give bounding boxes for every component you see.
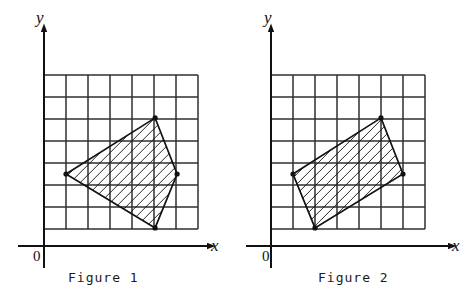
hatch-line (273, 0, 465, 98)
origin-label: 0 (262, 248, 270, 265)
hatch-line (273, 0, 465, 68)
hatch-line (273, 0, 465, 118)
hatch-line (273, 0, 465, 48)
hatch-line (273, 0, 465, 78)
hatch-line (273, 68, 465, 300)
vertex-dot-top (378, 115, 383, 120)
hatch-line (273, 0, 465, 58)
hatch-line (273, 18, 465, 278)
hatch-line (273, 0, 465, 138)
vertex-dot-top (153, 115, 158, 120)
figure-caption: Figure 2 (318, 270, 389, 285)
y-axis-label: y (264, 8, 272, 28)
vertex-dot-left (63, 171, 68, 176)
hatch-line (273, 0, 465, 28)
hatch-line (273, 0, 465, 8)
hatch-line (273, 0, 465, 158)
hatch-fill (273, 0, 465, 300)
hatch-line (273, 0, 465, 18)
hatch-line (273, 0, 465, 258)
hatch-line (273, 0, 465, 188)
vertex-dot-left (290, 171, 295, 176)
hatch-line (273, 0, 465, 178)
x-axis-label: x (211, 236, 219, 256)
hatch-line (273, 0, 465, 38)
hatch-line (273, 0, 465, 108)
hatch-line (273, 0, 465, 248)
figure-caption: Figure 1 (68, 270, 139, 285)
hatch-line (273, 0, 465, 128)
vertex-dot-right (400, 171, 405, 176)
hatch-line (273, 0, 465, 208)
hatch-line (46, 0, 307, 7)
vertex-dot-bottom (153, 225, 158, 230)
figure-group-2 (246, 0, 465, 300)
hatch-line (273, 0, 465, 168)
hatch-line (273, 48, 465, 300)
grid (271, 75, 425, 229)
x-axis-label: x (452, 236, 460, 256)
figures-svg (0, 0, 465, 300)
figure-pair-canvas: yx0Figure 1yx0Figure 2 (0, 0, 465, 300)
y-axis-label: y (36, 8, 44, 28)
vertex-dot-right (175, 171, 180, 176)
vertex-dot-bottom (312, 225, 317, 230)
origin-label: 0 (33, 248, 41, 265)
hatch-line (273, 28, 465, 288)
